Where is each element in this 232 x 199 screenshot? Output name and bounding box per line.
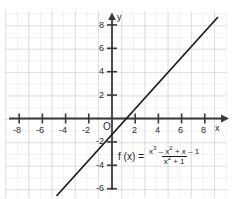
function-name: f (x) [118,152,135,162]
graph-canvas [0,0,232,199]
function-graph: -8 -6 -4 -2 2 4 6 8 8 6 4 2 -2 -4 -6 O x… [0,0,232,199]
x-tick-label-8: 8 [201,126,206,135]
den-term-2: + 1 [171,157,185,166]
y-axis-label: y [117,13,122,22]
fraction: x3 – x2 + x – 1 x2 + 1 [147,147,201,166]
x-axis-label: x [215,124,220,133]
x-tick-label-2: 2 [132,126,137,135]
fraction-numerator: x3 – x2 + x – 1 [147,147,201,156]
equals-sign: = [138,152,144,162]
x-tick-label-minus2: -2 [82,126,90,135]
origin-label: O [103,122,111,132]
y-tick-label-minus6: -6 [96,184,104,193]
y-tick-label-minus4: -4 [96,161,104,170]
x-tick-label-minus4: -4 [59,126,67,135]
y-tick-label-4: 4 [99,67,104,76]
x-tick-label-4: 4 [155,126,160,135]
y-tick-label-8: 8 [99,21,104,30]
y-tick-label-minus2: -2 [96,137,104,146]
num-term-3: + x – 1 [173,147,199,156]
y-tick-label-2: 2 [99,91,104,100]
function-definition: f (x) = x3 – x2 + x – 1 x2 + 1 [118,147,201,166]
x-tick-label-minus6: -6 [36,126,44,135]
grid-major [5,11,227,198]
y-tick-label-6: 6 [99,44,104,53]
fraction-denominator: x2 + 1 [162,156,187,166]
x-tick-label-minus8: -8 [13,126,21,135]
x-tick-label-6: 6 [178,126,183,135]
